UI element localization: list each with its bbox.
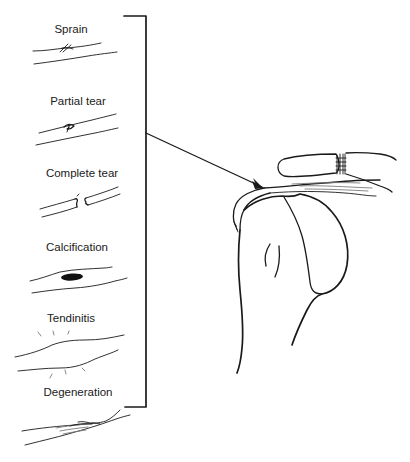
tendon-tendinitis-icon: [15, 331, 124, 378]
tendon-calcification-icon: [30, 267, 127, 293]
tendon-complete-tear-icon: [40, 187, 120, 217]
bracket: [124, 16, 146, 407]
tendon-partial-tear-icon: [36, 114, 118, 145]
tendon-sprain-icon: [33, 43, 117, 64]
illustration-svg: [0, 0, 410, 462]
tendon-degeneration-icon: [22, 410, 130, 445]
diagram-canvas: Sprain Partial tear Complete tear Calcif…: [0, 0, 410, 462]
pointer-arrow: [146, 133, 264, 189]
